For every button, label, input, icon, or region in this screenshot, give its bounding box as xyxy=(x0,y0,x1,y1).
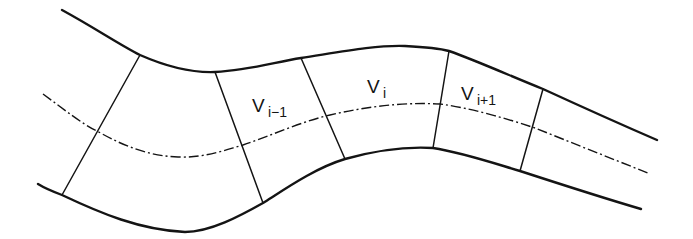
section-line-2 xyxy=(215,72,263,203)
lower-wall xyxy=(38,148,641,232)
section-line-4 xyxy=(433,51,449,148)
section-line-3 xyxy=(301,58,345,159)
label-v-i-minus-1: Vi−1 xyxy=(252,95,287,120)
label-v-i: Vi xyxy=(367,76,386,101)
control-volume-diagram: Vi−1 Vi Vi+1 xyxy=(0,0,693,239)
upper-wall xyxy=(62,10,657,140)
section-line-1 xyxy=(62,55,140,195)
label-v-i-plus-1: Vi+1 xyxy=(461,83,496,108)
channel-centerline xyxy=(43,94,648,173)
